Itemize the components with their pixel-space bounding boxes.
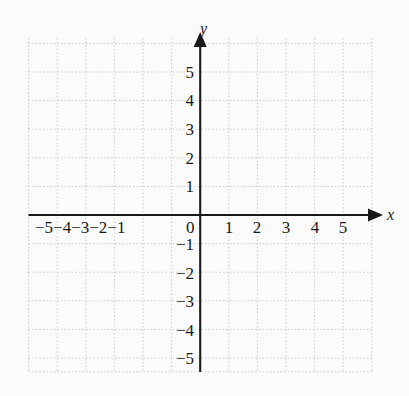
y-axis-label: y <box>200 21 207 37</box>
y-tick-label-neg2: −2 <box>168 265 194 282</box>
x-tick-label-1: 1 <box>219 219 239 236</box>
x-axis-label: x <box>387 207 394 223</box>
graph-canvas <box>0 0 409 396</box>
x-tick-label-5: 5 <box>333 219 353 236</box>
coordinate-plane-figure: y x 0 −5−4−3−2−1 1 2 3 4 5 5 4 3 2 1 −1 … <box>0 0 409 396</box>
y-tick-label-neg1: −1 <box>168 236 194 253</box>
y-tick-label-1: 1 <box>168 178 194 195</box>
y-tick-label-neg3: −3 <box>168 293 194 310</box>
x-negative-tick-labels: −5−4−3−2−1 <box>35 219 125 236</box>
x-tick-label-4: 4 <box>305 219 325 236</box>
origin-tick-label: 0 <box>186 219 195 236</box>
y-tick-label-4: 4 <box>168 92 194 109</box>
x-tick-label-2: 2 <box>247 219 267 236</box>
y-tick-label-2: 2 <box>168 150 194 167</box>
y-tick-label-3: 3 <box>168 121 194 138</box>
x-tick-label-3: 3 <box>276 219 296 236</box>
y-tick-label-neg4: −4 <box>168 322 194 339</box>
y-tick-label-neg5: −5 <box>168 350 194 367</box>
x-axis-arrowhead <box>368 209 383 222</box>
y-tick-label-5: 5 <box>168 64 194 81</box>
